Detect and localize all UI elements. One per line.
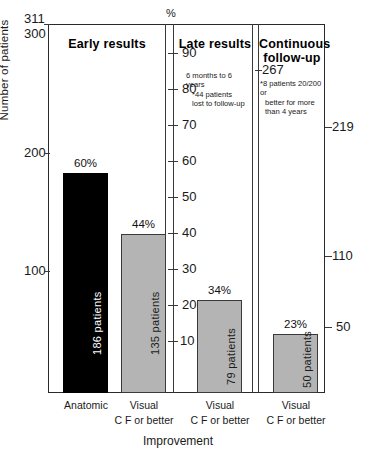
right-tick-mark-110 xyxy=(325,256,332,257)
x-label-3-line2: C F or better xyxy=(186,413,254,428)
right-tick-mark-50 xyxy=(325,327,332,328)
x-label-2-line2: C F or better xyxy=(110,413,178,428)
panel-divider-3 xyxy=(258,24,259,393)
pct-tick-20: 20 xyxy=(182,297,196,312)
right-tick-50: 50 xyxy=(336,319,350,334)
y-tick-100: 100 xyxy=(24,263,46,278)
panel-title-early: Early results xyxy=(52,37,162,51)
pct-tick-10: 10 xyxy=(180,333,194,348)
pct-tick-mark-80 xyxy=(168,89,178,90)
pct-tick-mark-20 xyxy=(168,305,178,306)
percent-axis-title: % xyxy=(166,7,176,19)
right-tick-mark-219 xyxy=(325,127,332,128)
x-axis-title: Improvement xyxy=(108,434,248,448)
pct-tick-mark-90 xyxy=(168,53,178,54)
panel-title-continuous-line2: follow-up xyxy=(259,51,325,65)
y-tick-311: 311 xyxy=(24,11,45,26)
y-tick-mark-100 xyxy=(44,271,50,272)
bar-value-label-4: 50 patients xyxy=(301,331,313,388)
right-tick-mark-267 xyxy=(255,70,262,71)
pct-tick-mark-60 xyxy=(168,161,178,162)
x-label-1: Anatomic xyxy=(55,398,117,413)
y-axis-title: Number of patients xyxy=(0,0,10,150)
x-label-4-line2: C F or better xyxy=(262,413,330,428)
chart-container: Number of patients 311 300 200 100 % 90 … xyxy=(0,0,375,458)
pct-tick-mark-10 xyxy=(168,341,178,342)
y-tick-mark-311 xyxy=(44,24,50,25)
x-label-2: Visual C F or better xyxy=(110,398,178,428)
late-results-note: 6 months to 6 years *44 patients lost to… xyxy=(186,71,252,109)
bar-label-percent-4: 23% xyxy=(273,318,318,330)
pct-tick-mark-50 xyxy=(168,197,178,198)
y-tick-300: 300 xyxy=(24,26,46,41)
pct-tick-70: 70 xyxy=(182,117,196,132)
late-note-line2: *44 patients xyxy=(192,90,252,99)
percent-axis-line xyxy=(173,24,174,393)
bar-anatomic-early xyxy=(63,173,108,393)
continuous-followup-note: *8 patients 20/200 or better for more th… xyxy=(260,79,330,117)
bar-value-label-2: 135 patients xyxy=(149,291,161,355)
bar-label-percent-2: 44% xyxy=(121,218,166,230)
bar-label-percent-1: 60% xyxy=(63,157,108,169)
x-label-1-line1: Anatomic xyxy=(55,398,117,413)
bar-value-label-3: 79 patients xyxy=(225,328,237,385)
bar-label-percent-3: 34% xyxy=(197,284,242,296)
right-tick-110: 110 xyxy=(332,248,353,263)
x-label-4: Visual C F or better xyxy=(262,398,330,428)
pct-tick-60: 60 xyxy=(182,153,196,168)
pct-tick-mark-70 xyxy=(168,125,178,126)
y-tick-200: 200 xyxy=(24,145,46,160)
x-label-4-line1: Visual xyxy=(262,398,330,413)
pct-tick-mark-40 xyxy=(168,233,178,234)
cont-note-line1: *8 patients 20/200 or xyxy=(260,79,330,98)
cont-note-line2: better for more xyxy=(265,98,330,107)
pct-tick-mark-30 xyxy=(168,269,178,270)
panel-divider-2 xyxy=(252,24,253,393)
panel-title-late: Late results xyxy=(178,37,252,51)
right-tick-219: 219 xyxy=(332,119,354,134)
late-note-line1: 6 months to 6 years xyxy=(186,71,252,90)
x-label-2-line1: Visual xyxy=(110,398,178,413)
pct-tick-50: 50 xyxy=(182,189,196,204)
late-note-line3: lost to follow-up xyxy=(192,99,252,108)
cont-note-line3: than 4 years xyxy=(265,107,330,116)
y-tick-mark-200 xyxy=(44,153,50,154)
panel-title-continuous-line1: Continuous xyxy=(259,37,325,51)
bar-value-label-1: 186 patients xyxy=(91,291,103,355)
x-label-3: Visual C F or better xyxy=(186,398,254,428)
panel-title-continuous: Continuous follow-up xyxy=(259,37,325,65)
x-label-3-line1: Visual xyxy=(186,398,254,413)
pct-tick-40: 40 xyxy=(182,225,196,240)
pct-tick-30: 30 xyxy=(182,261,196,276)
